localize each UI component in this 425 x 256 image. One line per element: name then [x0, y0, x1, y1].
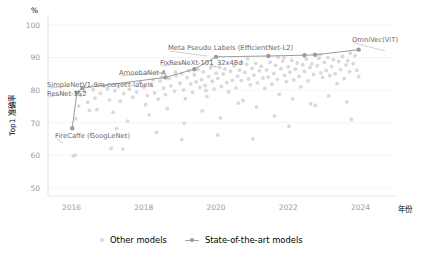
y-axis-title: Top1 准确率 [6, 81, 17, 151]
sota-point[interactable] [192, 67, 196, 71]
scatter-point [229, 69, 233, 73]
scatter-point [200, 78, 204, 82]
x-axis-title: 年份 [398, 203, 412, 214]
scatter-point [313, 103, 317, 107]
sota-point[interactable] [313, 53, 317, 57]
scatter-point [236, 74, 240, 78]
scatter-point [263, 87, 267, 91]
x-tick-label: 2024 [351, 203, 370, 212]
scatter-point [158, 79, 162, 83]
scatter-point [250, 66, 254, 70]
scatter-point [227, 90, 231, 94]
scatter-point [218, 116, 222, 120]
scatter-point [317, 56, 321, 60]
scatter-point [299, 85, 303, 89]
scatter-point [309, 102, 313, 106]
scatter-point [238, 68, 242, 72]
scatter-point [173, 89, 177, 93]
scatter-point [330, 65, 334, 69]
scatter-point [331, 58, 335, 62]
annotation-label: Meta Pseudo Labels (EfficientNet-L2) [168, 44, 294, 52]
scatter-point [221, 72, 225, 76]
scatter-point [335, 82, 339, 86]
scatter-point [344, 63, 348, 67]
scatter-point [259, 64, 263, 68]
scatter-point [351, 62, 355, 66]
legend-item-other-models[interactable]: Other models [100, 235, 167, 245]
x-tick-label: 2016 [62, 203, 81, 212]
scatter-point [88, 108, 92, 112]
scatter-point [270, 82, 274, 86]
legend-dot-icon [100, 238, 104, 242]
sota-point[interactable] [356, 47, 360, 51]
scatter-point [294, 67, 298, 71]
scatter-point [111, 110, 115, 114]
scatter-point [165, 107, 169, 111]
scatter-point [251, 137, 255, 141]
scatter-point [256, 81, 260, 85]
scatter-point [223, 67, 227, 71]
scatter-point [276, 77, 280, 81]
scatter-point [353, 54, 357, 58]
scatter-point [273, 114, 277, 118]
annotation-label: SimpleNetV1-9m-correct-labels [47, 81, 154, 89]
scatter-point [304, 57, 308, 61]
scatter-point [339, 68, 343, 72]
legend-item-sota-models[interactable]: State-of-the-art models [185, 235, 303, 245]
scatter-point [93, 96, 97, 100]
x-tick-label: 2022 [279, 203, 298, 212]
scatter-point [189, 82, 193, 86]
scatter-point [248, 83, 252, 87]
scatter-point [212, 87, 216, 91]
y-axis-unit-label: % [31, 6, 38, 15]
scatter-point [145, 94, 149, 98]
legend: Other models State-of-the-art models [100, 235, 303, 245]
scatter-point [239, 79, 243, 83]
legend-line-dot-icon [185, 238, 199, 243]
scatter-point [308, 66, 312, 70]
sota-point[interactable] [302, 53, 306, 57]
scatter-point [266, 75, 270, 79]
scatter-point [327, 94, 331, 98]
scatter-point [310, 62, 314, 66]
scatter-point [292, 78, 296, 82]
scatter-point [355, 68, 359, 72]
chart-container: FireCaffe (GoogLeNet)ResNet-152SimpleNet… [0, 0, 425, 256]
sota-point[interactable] [266, 54, 270, 58]
scatter-point [350, 118, 354, 122]
scatter-point [135, 90, 139, 94]
scatter-point [282, 56, 286, 60]
scatter-point [281, 59, 285, 63]
scatter-point [285, 80, 289, 84]
scatter-point [174, 70, 178, 74]
scatter-point [287, 124, 291, 128]
scatter-point [220, 85, 224, 89]
y-axis-ticks: 5060708090100 [26, 21, 41, 193]
scatter-point [337, 59, 341, 63]
scatter-point [326, 56, 330, 60]
accuracy-scatter-chart: FireCaffe (GoogLeNet)ResNet-152SimpleNet… [0, 0, 425, 256]
scatter-point [191, 90, 195, 94]
scatter-point [98, 91, 102, 95]
annotation-label: FireCaffe (GoogLeNet) [55, 132, 130, 140]
scatter-point [274, 63, 278, 67]
scatter-point [118, 99, 122, 103]
scatter-point [345, 100, 349, 104]
scatter-point [312, 73, 316, 77]
scatter-point [204, 89, 208, 93]
scatter-point [306, 79, 310, 83]
sota-point[interactable] [70, 126, 74, 130]
y-tick-label: 70 [30, 119, 40, 128]
scatter-point [182, 88, 186, 92]
scatter-point [241, 99, 245, 103]
scatter-point [321, 75, 325, 79]
legend-label-other-models: Other models [110, 235, 167, 245]
y-tick-label: 100 [26, 21, 41, 30]
scatter-point [131, 95, 135, 99]
scatter-point [207, 75, 211, 79]
scatter-point [169, 84, 173, 88]
scatter-point [341, 55, 345, 59]
scatter-point [210, 79, 214, 83]
scatter-point [272, 72, 276, 76]
annotation-label: AmoebaNet-A [119, 69, 166, 77]
